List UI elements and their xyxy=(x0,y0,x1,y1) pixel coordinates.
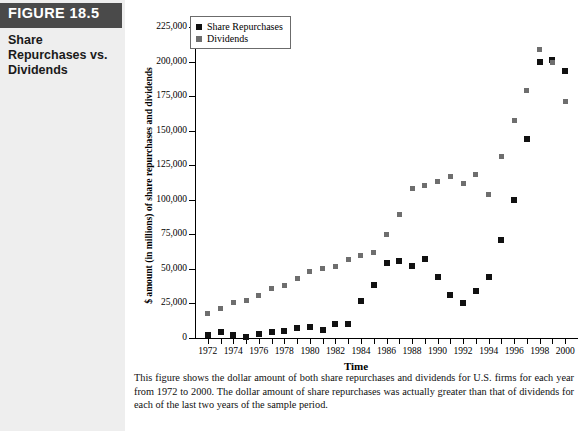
data-point-repurchases xyxy=(511,197,517,203)
x-axis-tick xyxy=(476,339,477,344)
data-point-dividends xyxy=(205,311,210,316)
x-axis-tick xyxy=(208,339,209,344)
data-point-repurchases xyxy=(537,59,543,65)
x-axis-tick xyxy=(323,339,324,344)
data-point-dividends xyxy=(524,88,529,93)
x-axis-tick xyxy=(387,339,388,344)
figure-page: FIGURE 18.5 Share Repurchases vs. Divide… xyxy=(0,0,583,431)
x-axis-tick xyxy=(221,339,222,344)
data-point-dividends xyxy=(550,60,555,65)
data-point-repurchases xyxy=(345,321,351,327)
x-axis-line xyxy=(195,338,578,339)
data-point-repurchases xyxy=(396,258,402,264)
x-axis-tick-label: 1974 xyxy=(224,346,243,356)
data-point-dividends xyxy=(269,286,274,291)
x-axis-tick xyxy=(463,339,464,344)
legend-swatch-dividends-icon xyxy=(196,36,202,42)
x-axis-tick xyxy=(310,339,311,344)
data-point-repurchases xyxy=(269,329,275,335)
data-point-repurchases xyxy=(243,334,249,340)
y-axis-tick-labels: 025,00050,00075,000100,000125,000150,000… xyxy=(130,5,187,365)
data-point-dividends xyxy=(499,154,504,159)
data-point-repurchases xyxy=(371,282,377,288)
data-point-repurchases xyxy=(205,332,211,338)
x-axis-tick xyxy=(412,339,413,344)
y-axis-tick-label: 225,000 xyxy=(156,22,187,31)
figure-caption: This figure shows the dollar amount of b… xyxy=(134,371,574,412)
x-axis-tick-label: 1992 xyxy=(454,346,473,356)
x-axis-tick-label: 1988 xyxy=(403,346,422,356)
x-axis-tick xyxy=(297,339,298,344)
data-point-dividends xyxy=(537,47,542,52)
data-point-repurchases xyxy=(281,328,287,334)
x-axis-tick-label: 1984 xyxy=(351,346,370,356)
y-axis-line xyxy=(195,22,196,338)
x-axis-tick xyxy=(438,339,439,344)
x-axis-tick-label: 1986 xyxy=(377,346,396,356)
data-point-dividends xyxy=(563,99,568,104)
y-axis-tick-label: 50,000 xyxy=(161,264,187,273)
data-point-repurchases xyxy=(524,136,530,142)
data-point-repurchases xyxy=(562,68,568,74)
data-point-repurchases xyxy=(435,274,441,280)
x-axis-tick-label: 1994 xyxy=(479,346,498,356)
x-axis-tick xyxy=(540,339,541,344)
x-axis-tick-label: 1982 xyxy=(326,346,345,356)
x-axis-tick-label: 1980 xyxy=(300,346,319,356)
data-point-dividends xyxy=(320,266,325,271)
x-axis-tick-label: 1990 xyxy=(428,346,447,356)
x-axis-tick xyxy=(335,339,336,344)
data-point-repurchases xyxy=(486,274,492,280)
figure-sidebar: FIGURE 18.5 Share Repurchases vs. Divide… xyxy=(0,0,125,431)
data-point-repurchases xyxy=(473,288,479,294)
y-axis-tick-label: 0 xyxy=(182,333,187,342)
chart-legend: Share Repurchases Dividends xyxy=(190,16,291,49)
legend-item-repurchases: Share Repurchases xyxy=(196,21,283,32)
data-point-dividends xyxy=(358,253,363,258)
x-axis-tick xyxy=(361,339,362,344)
x-axis-tick xyxy=(514,339,515,344)
data-point-repurchases xyxy=(384,260,390,266)
x-axis-tick xyxy=(565,339,566,344)
y-axis-tick-label: 150,000 xyxy=(156,126,187,135)
data-point-repurchases xyxy=(230,332,236,338)
data-point-repurchases xyxy=(498,237,504,243)
data-point-repurchases xyxy=(294,325,300,331)
x-axis-tick xyxy=(246,339,247,344)
y-axis-tick-label: 200,000 xyxy=(156,57,187,66)
data-point-dividends xyxy=(333,264,338,269)
data-point-dividends xyxy=(307,269,312,274)
legend-item-dividends: Dividends xyxy=(196,33,283,44)
x-axis-tick xyxy=(348,339,349,344)
figure-number-label: FIGURE 18.5 xyxy=(8,5,99,21)
figure-title: Share Repurchases vs. Dividends xyxy=(8,33,120,78)
legend-label-dividends: Dividends xyxy=(207,34,248,44)
data-point-dividends xyxy=(448,174,453,179)
data-point-repurchases xyxy=(460,300,466,306)
x-axis-tick-label: 1972 xyxy=(198,346,217,356)
legend-swatch-repurchases-icon xyxy=(196,24,202,30)
x-axis-tick-label: 1998 xyxy=(530,346,549,356)
data-point-dividends xyxy=(410,186,415,191)
data-point-dividends xyxy=(473,172,478,177)
x-axis-tick xyxy=(450,339,451,344)
data-point-repurchases xyxy=(358,298,364,304)
y-axis-tick-label: 175,000 xyxy=(156,91,187,100)
x-axis-tick-label: 1976 xyxy=(249,346,268,356)
data-point-repurchases xyxy=(332,321,338,327)
x-axis-tick xyxy=(425,339,426,344)
chart-plot-area: 025,00050,00075,000100,000125,000150,000… xyxy=(130,5,582,365)
data-point-dividends xyxy=(256,293,261,298)
data-point-dividends xyxy=(244,298,249,303)
data-point-dividends xyxy=(461,181,466,186)
data-point-repurchases xyxy=(307,324,313,330)
data-point-dividends xyxy=(282,283,287,288)
data-point-dividends xyxy=(371,250,376,255)
y-axis-tick-label: 75,000 xyxy=(161,229,187,238)
data-point-dividends xyxy=(512,118,517,123)
x-axis-tick-label: 1978 xyxy=(275,346,294,356)
x-axis-tick-label: 2000 xyxy=(556,346,575,356)
data-point-dividends xyxy=(435,179,440,184)
x-axis-tick xyxy=(552,339,553,344)
y-axis-tick-label: 25,000 xyxy=(161,298,187,307)
